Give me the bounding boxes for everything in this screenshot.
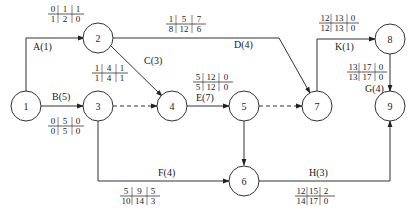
svg-text:3: 3	[151, 196, 156, 206]
svg-text:0: 0	[76, 116, 81, 126]
svg-text:1: 1	[95, 73, 100, 83]
svg-text:12: 12	[180, 24, 189, 34]
svg-text:1: 1	[95, 63, 100, 73]
svg-text:17: 17	[363, 62, 373, 72]
activity-c-label: C(3)	[144, 55, 162, 67]
svg-text:0: 0	[351, 13, 356, 23]
svg-text:0: 0	[51, 126, 56, 136]
activity-b-label: B(5)	[52, 91, 70, 103]
svg-text:13: 13	[335, 23, 345, 33]
activity-b-params: 0 5 0 0 5 0	[48, 116, 84, 136]
svg-text:5: 5	[63, 126, 68, 136]
activity-a-label: A(1)	[33, 41, 52, 53]
svg-text:14: 14	[135, 196, 145, 206]
svg-text:0: 0	[51, 116, 56, 126]
svg-text:12: 12	[321, 13, 330, 23]
svg-text:15: 15	[309, 186, 319, 196]
node-8-label: 8	[388, 34, 393, 45]
svg-text:14: 14	[297, 196, 307, 206]
activity-c-arrow	[111, 46, 162, 96]
svg-text:13: 13	[335, 13, 345, 23]
node-3-label: 3	[96, 101, 101, 112]
svg-text:5: 5	[151, 186, 156, 196]
svg-text:1: 1	[76, 4, 81, 14]
node-1-label: 1	[24, 101, 29, 112]
node-7-label: 7	[315, 101, 320, 112]
svg-text:6: 6	[197, 24, 202, 34]
node-4-label: 4	[170, 101, 175, 112]
svg-text:13: 13	[349, 62, 359, 72]
svg-text:12: 12	[207, 82, 216, 92]
activity-d-params: 1 5 7 8 12 6	[166, 14, 206, 34]
activity-g-params: 13 17 0 13 17 0	[347, 62, 387, 82]
svg-text:12: 12	[207, 72, 216, 82]
svg-text:5: 5	[124, 186, 129, 196]
svg-text:2: 2	[324, 186, 329, 196]
svg-text:1: 1	[169, 14, 174, 24]
activity-k-params: 12 13 0 12 13 0	[319, 13, 359, 33]
svg-text:13: 13	[349, 72, 359, 82]
svg-text:1: 1	[120, 63, 125, 73]
svg-text:1: 1	[63, 4, 68, 14]
svg-text:0: 0	[224, 82, 229, 92]
svg-text:7: 7	[197, 14, 202, 24]
svg-text:5: 5	[63, 116, 68, 126]
activity-e-params: 5 12 0 5 12 0	[193, 72, 233, 92]
svg-text:0: 0	[379, 72, 384, 82]
svg-text:0: 0	[224, 72, 229, 82]
svg-text:5: 5	[196, 82, 201, 92]
svg-text:5: 5	[196, 72, 201, 82]
activity-a-params: 0 1 1 1 2 0	[48, 4, 84, 24]
activity-k-label: K(1)	[335, 41, 354, 53]
svg-text:0: 0	[379, 62, 384, 72]
svg-text:5: 5	[182, 14, 187, 24]
svg-text:0: 0	[324, 196, 329, 206]
node-9-label: 9	[388, 101, 393, 112]
svg-text:4: 4	[107, 63, 112, 73]
svg-text:12: 12	[297, 186, 306, 196]
activity-h-label: H(3)	[309, 167, 328, 179]
svg-text:10: 10	[122, 196, 132, 206]
activity-h-params: 12 15 2 14 17 0	[295, 186, 335, 206]
svg-text:0: 0	[51, 4, 56, 14]
svg-text:0: 0	[76, 126, 81, 136]
svg-text:8: 8	[169, 24, 174, 34]
node-2-label: 2	[96, 33, 101, 44]
svg-text:1: 1	[120, 73, 125, 83]
node-6-label: 6	[242, 176, 247, 187]
svg-text:17: 17	[309, 196, 319, 206]
svg-text:1: 1	[51, 14, 56, 24]
network-diagram-main: 1 2 3 4 5 6 7 8 9 A(1) B(5) C(3) D(4) E(…	[0, 0, 415, 216]
svg-text:9: 9	[137, 186, 142, 196]
activity-c-params: 1 4 1 1 4 1	[92, 63, 128, 83]
activity-f-params: 5 9 5 10 14 3	[120, 186, 160, 206]
svg-text:12: 12	[321, 23, 330, 33]
svg-text:0: 0	[351, 23, 356, 33]
svg-text:0: 0	[76, 14, 81, 24]
node-5-label: 5	[242, 101, 247, 112]
activity-g-label: G(4)	[365, 83, 384, 95]
activity-f-label: F(4)	[158, 167, 175, 179]
activity-d-label: D(4)	[234, 39, 253, 51]
svg-text:4: 4	[107, 73, 112, 83]
svg-text:2: 2	[63, 14, 68, 24]
svg-text:17: 17	[363, 72, 373, 82]
activity-e-label: E(7)	[196, 92, 214, 104]
